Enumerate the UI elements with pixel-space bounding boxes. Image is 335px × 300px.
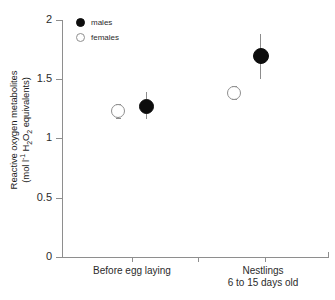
legend-label-females: females [91,33,119,42]
x-tick-mark-3 [265,257,266,262]
legend-label-males: males [91,18,112,27]
y-axis-label-line1: Reactive oxygen metabolites [8,71,20,190]
error-cap-bottom-females-before-egg-laying [116,118,121,119]
x-category-label-2: Nestlings 6 to 15 days old [198,265,328,289]
y-unit-mid: H [20,145,31,154]
y-tick-label-0_5: 0.5 [12,192,52,203]
y-axis-label: Reactive oxygen metabolites (mol l-1 H2O… [0,0,40,260]
y-tick-mark-0_5 [56,198,62,199]
x-axis-start-tick [62,252,63,258]
x-category-label-2-line1: Nestlings [242,265,283,276]
y-unit-prefix: (mol l [20,160,31,183]
x-axis-end-tick [328,252,329,258]
x-tick-mark-2 [198,257,199,262]
y-unit-superscript: -1 [19,154,26,160]
chart-figure: Reactive oxygen metabolites (mol l-1 H2O… [0,0,335,300]
y-tick-label-0: 0 [12,251,52,262]
y-tick-label-1_5: 1.5 [12,73,52,84]
legend-item-males[interactable]: males [76,16,156,29]
y-axis-label-line2: (mol l-1 H2O2 equivalents) [20,71,32,190]
y-axis-line [62,20,63,258]
y-unit-suffix: equivalents) [20,77,31,130]
data-point-females-nestlings[interactable] [227,86,241,100]
y-tick-label-1: 1 [12,132,52,143]
y-tick-mark-2 [56,20,62,21]
x-category-label-1-line1: Before egg laying [93,265,171,276]
x-tick-mark-1 [132,257,133,262]
legend-item-females[interactable]: females [76,31,156,44]
legend: males females [76,16,156,46]
data-point-females-before-egg-laying[interactable] [111,104,125,118]
x-axis-line [62,257,328,258]
data-point-males-nestlings[interactable] [253,48,269,64]
y-tick-mark-1 [56,138,62,139]
open-circle-icon [76,33,85,42]
filled-circle-icon [76,18,85,27]
y-tick-mark-1_5 [56,79,62,80]
x-category-label-1: Before egg laying [72,265,192,277]
x-category-label-2-line2: 6 to 15 days old [198,277,328,289]
y-tick-label-2: 2 [12,14,52,25]
data-point-males-before-egg-laying[interactable] [139,99,154,114]
